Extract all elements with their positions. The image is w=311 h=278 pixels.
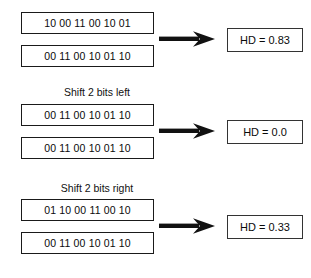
hamming-distance-box: HD = 0.0 bbox=[227, 120, 303, 144]
hamming-distance-value: HD = 0.0 bbox=[228, 121, 302, 143]
bit-string-top-value: 00 11 00 10 01 10 bbox=[22, 105, 153, 125]
comparison-section-shift-left: Shift 2 bits left 00 11 00 10 01 10 00 1… bbox=[0, 86, 311, 176]
bit-string-box-bottom: 00 11 00 10 01 10 bbox=[21, 45, 154, 67]
bit-string-box-top: 10 00 11 00 10 01 bbox=[21, 12, 154, 34]
bit-string-bottom-value: 00 11 00 10 01 10 bbox=[22, 138, 153, 158]
bit-string-box-bottom: 00 11 00 10 01 10 bbox=[21, 137, 154, 159]
right-arrow-icon bbox=[159, 217, 217, 235]
hamming-distance-value: HD = 0.83 bbox=[228, 29, 302, 51]
bit-string-top-value: 10 00 11 00 10 01 bbox=[22, 13, 153, 33]
hamming-distance-box: HD = 0.83 bbox=[227, 28, 303, 52]
bit-string-top-value: 01 10 00 11 00 10 bbox=[22, 200, 153, 220]
hamming-distance-box: HD = 0.33 bbox=[227, 215, 303, 239]
right-arrow-icon bbox=[159, 30, 217, 48]
section-label-shift-right: Shift 2 bits right bbox=[21, 182, 173, 194]
right-arrow-icon bbox=[159, 122, 217, 140]
hamming-distance-diagram: 10 00 11 00 10 01 00 11 00 10 01 10 HD =… bbox=[0, 0, 311, 278]
comparison-section-shift-right: Shift 2 bits right 01 10 00 11 00 10 00 … bbox=[0, 182, 311, 278]
bit-string-box-top: 00 11 00 10 01 10 bbox=[21, 104, 154, 126]
bit-string-box-bottom: 00 11 00 10 01 10 bbox=[21, 232, 154, 254]
bit-string-bottom-value: 00 11 00 10 01 10 bbox=[22, 233, 153, 253]
section-label-shift-left: Shift 2 bits left bbox=[21, 86, 173, 98]
bit-string-box-top: 01 10 00 11 00 10 bbox=[21, 199, 154, 221]
comparison-section-original: 10 00 11 00 10 01 00 11 00 10 01 10 HD =… bbox=[0, 0, 311, 88]
bit-string-bottom-value: 00 11 00 10 01 10 bbox=[22, 46, 153, 66]
hamming-distance-value: HD = 0.33 bbox=[228, 216, 302, 238]
